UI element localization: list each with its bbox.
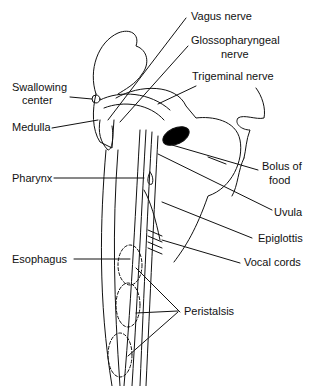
- label-vagus-nerve: Vagus nerve: [191, 10, 252, 23]
- label-glossopharyngeal-line1: Glossopharyngeal: [191, 34, 280, 47]
- glosso-nerve-line: [120, 46, 188, 122]
- label-medulla: Medulla: [12, 121, 51, 134]
- label-vocal-cords: Vocal cords: [244, 256, 301, 269]
- label-peristalsis: Peristalsis: [184, 305, 234, 318]
- label-swallowing-line2: center: [22, 94, 53, 107]
- anatomy-drawing: [0, 0, 310, 386]
- bolus-of-food: [160, 123, 192, 149]
- label-bolus-line2: food: [269, 174, 290, 187]
- label-pharynx: Pharynx: [12, 172, 52, 185]
- brain-outline: [93, 31, 147, 94]
- label-glossopharyngeal-line2: nerve: [221, 48, 249, 61]
- label-bolus-line1: Bolus of: [262, 160, 302, 173]
- head-outline: [116, 88, 241, 262]
- epiglottis: [144, 190, 160, 240]
- label-esophagus: Esophagus: [12, 253, 67, 266]
- swallowing-center: [92, 95, 100, 103]
- vagus-nerve-line: [108, 18, 186, 120]
- trigeminal-nerve-line: [158, 86, 196, 104]
- swallowing-diagram: Vagus nerve Glossopharyngeal nerve Trige…: [0, 0, 310, 386]
- label-swallowing-line1: Swallowing: [12, 81, 67, 94]
- label-epiglottis: Epiglottis: [258, 232, 303, 245]
- label-uvula: Uvula: [274, 206, 302, 219]
- label-trigeminal-nerve: Trigeminal nerve: [192, 70, 274, 83]
- vocal-cords: [148, 230, 162, 254]
